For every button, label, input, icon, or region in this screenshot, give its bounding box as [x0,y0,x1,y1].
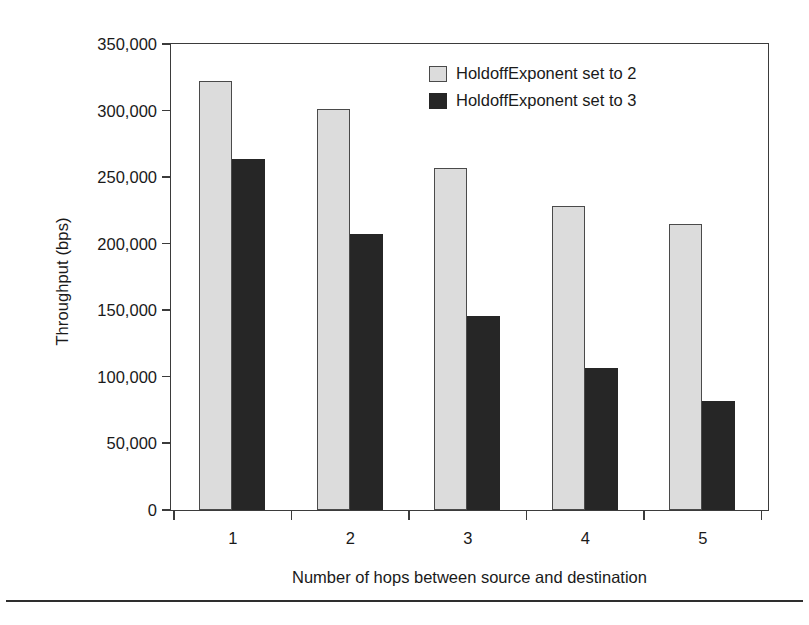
x-tick-label: 1 [193,529,273,548]
x-tick-label: 5 [663,529,743,548]
x-tick-mark [291,510,293,520]
legend-item: HoldoffExponent set to 3 [429,87,636,114]
bar-group [317,44,383,510]
bar [467,316,500,510]
legend-label: HoldoffExponent set to 2 [456,64,636,83]
y-tick-mark [162,309,171,311]
x-tick-label: 2 [310,529,390,548]
chart-legend: HoldoffExponent set to 2HoldoffExponent … [429,60,636,114]
y-tick-label: 150,000 [97,299,157,321]
y-tick-label: 250,000 [97,166,157,188]
bar [317,109,350,510]
y-tick-label: 200,000 [97,233,157,255]
x-tick-label: 3 [428,529,508,548]
chart-figure: Throughput (bps) 050,000100,000150,00020… [0,0,809,625]
bar [585,368,618,510]
x-tick-mark [761,510,763,520]
y-axis-title: Throughput (bps) [53,152,72,412]
y-tick-mark [162,176,171,178]
bar [669,224,702,510]
bar [199,81,232,510]
plot-area: 050,000100,000150,000200,000250,000300,0… [170,43,769,511]
bar [702,401,735,510]
bar-group [669,44,735,510]
x-tick-mark [526,510,528,520]
legend-item: HoldoffExponent set to 2 [429,60,636,87]
bar [434,168,467,510]
bar [552,206,585,510]
y-tick-label: 300,000 [97,100,157,122]
y-tick-label: 100,000 [97,366,157,388]
y-tick-label: 50,000 [107,432,157,454]
x-tick-mark [408,510,410,520]
y-tick-label: 0 [148,499,157,521]
legend-label: HoldoffExponent set to 3 [456,91,636,110]
y-tick-mark [162,243,171,245]
x-axis-title: Number of hops between source and destin… [170,568,769,587]
y-tick-mark [162,442,171,444]
bar [350,234,383,510]
bar [232,159,265,510]
y-tick-label: 350,000 [97,33,157,55]
x-tick-mark [173,510,175,520]
legend-swatch [429,93,447,109]
y-tick-mark [162,43,171,45]
x-tick-label: 4 [545,529,625,548]
y-tick-mark [162,110,171,112]
bar-group [199,44,265,510]
x-tick-mark [643,510,645,520]
y-tick-mark [162,376,171,378]
legend-swatch [429,66,447,82]
bottom-divider [6,600,803,602]
y-tick-mark [162,509,171,511]
